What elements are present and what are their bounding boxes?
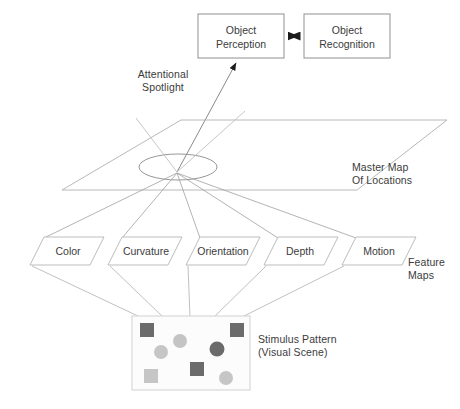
master-map-label: Master Map Of Locations — [352, 161, 412, 187]
map-to-feature-lines — [44, 173, 356, 238]
dark-square-top-right — [230, 323, 244, 337]
dark-square-center — [190, 362, 204, 376]
feature-map-label-orientation: Orientation — [188, 245, 258, 257]
dark-square-top-left — [140, 323, 154, 337]
attentional-spotlight-label: Attentional Spotlight — [115, 68, 211, 94]
feature-integration-diagram: Object Perception Object Recognition Att… — [0, 0, 460, 409]
light-circle-left — [154, 345, 168, 359]
feature-to-stimulus-lines — [32, 266, 344, 317]
diagram-vector-layer — [0, 0, 460, 409]
light-square-bottom-left — [144, 369, 158, 383]
feature-maps-label: Feature Maps — [408, 256, 445, 282]
light-circle-upper-mid — [173, 334, 187, 348]
dark-circle-right — [210, 342, 225, 357]
object-recognition-label: Object Recognition — [306, 24, 388, 51]
feature-map-label-curvature: Curvature — [112, 245, 180, 257]
stimulus-pattern-label: Stimulus Pattern (Visual Scene) — [258, 333, 337, 359]
feature-map-label-motion: Motion — [348, 245, 410, 257]
feature-map-label-depth: Depth — [270, 245, 330, 257]
feature-map-label-color: Color — [38, 245, 98, 257]
object-perception-label: Object Perception — [200, 24, 282, 51]
light-circle-bottom — [219, 371, 233, 385]
